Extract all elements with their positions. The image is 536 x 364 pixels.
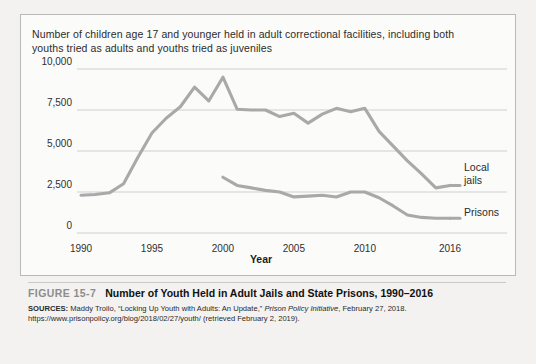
figure-number: FIGURE 15-7 [28,287,96,299]
chart-panel: Number of children age 17 and younger he… [20,14,516,276]
sources-text-1: Maddy Troilo, “Locking Up Youth with Adu… [68,304,264,313]
y-tick-label: 5,000 [47,138,72,149]
figure-title: Number of Youth Held in Adult Jails and … [105,287,433,299]
sources-label: SOURCES: [28,304,68,313]
legend-local-jails-line2: jails [464,174,489,187]
y-tick-label: 10,000 [41,56,72,67]
legend-prisons: Prisons [464,206,499,219]
series-line-prisons [223,177,450,218]
caption-heading: FIGURE 15-7Number of Youth Held in Adult… [28,287,508,299]
legend-local-jails: Local jails [464,161,489,186]
line-chart-svg: 02,5005,0007,50010,000199019952000200520… [21,15,517,277]
chart-plot-area: 02,5005,0007,50010,000199019952000200520… [21,15,517,277]
y-tick-label: 2,500 [47,179,72,190]
caption-rule [28,282,506,283]
figure-sources: SOURCES: Maddy Troilo, “Locking Up Youth… [28,304,514,324]
figure-page: Number of children age 17 and younger he… [0,0,536,364]
y-tick-label: 0 [66,220,72,231]
x-axis-title: Year [13,253,509,265]
series-line-local-jails [81,77,450,195]
sources-publication: Prison Policy Initiative [264,304,338,313]
y-tick-label: 7,500 [47,97,72,108]
legend-local-jails-line1: Local [464,161,489,174]
